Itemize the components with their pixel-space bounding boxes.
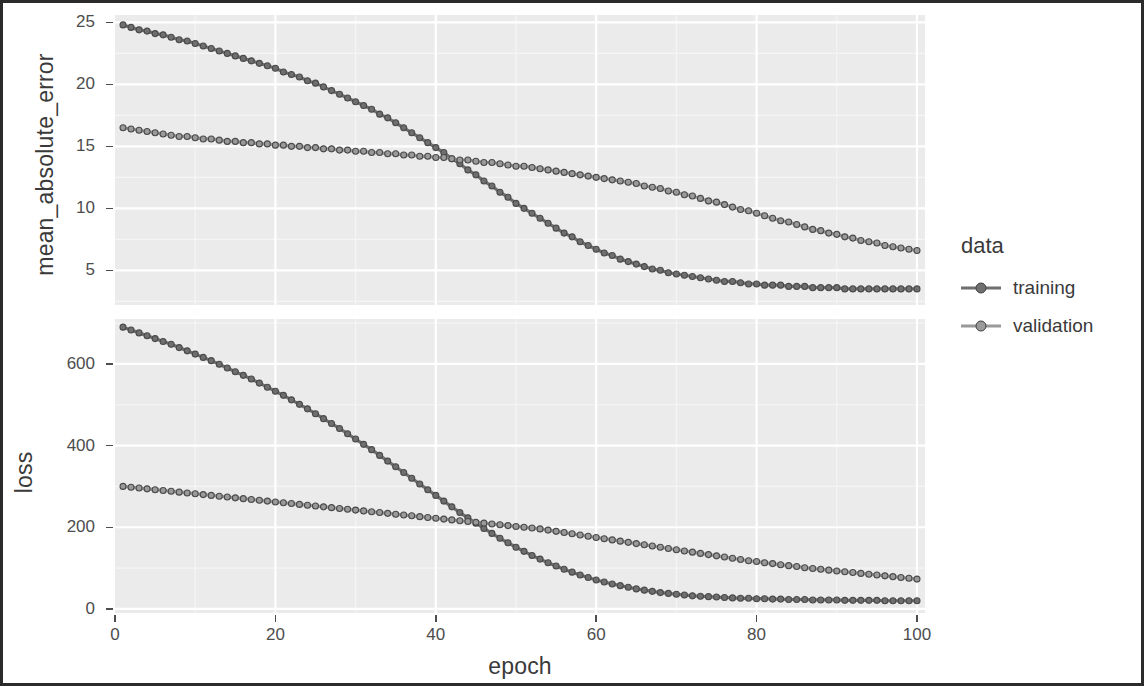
- x-axis-title-epoch: epoch: [115, 653, 925, 680]
- legend-item-validation[interactable]: validation: [961, 315, 1136, 337]
- legend-label: training: [1013, 277, 1075, 299]
- x-tick-label: 100: [882, 625, 952, 645]
- y-tick-mark: [106, 608, 113, 610]
- y-tick-label: 15: [3, 136, 95, 156]
- y-tick-label: 600: [3, 354, 95, 374]
- chart-svg-mean-absolute-error: [115, 15, 925, 305]
- x-tick-mark: [756, 615, 758, 622]
- y-axis-title-loss: loss: [11, 413, 38, 533]
- y-tick-label: 20: [3, 74, 95, 94]
- y-tick-mark: [106, 527, 113, 529]
- x-tick-mark: [114, 615, 116, 622]
- y-tick-mark: [106, 208, 113, 210]
- y-tick-mark: [106, 363, 113, 365]
- legend-item-training[interactable]: training: [961, 277, 1136, 299]
- panel-mean-absolute-error: [115, 15, 925, 305]
- x-tick-label: 60: [561, 625, 631, 645]
- x-tick-label: 40: [401, 625, 471, 645]
- x-tick-mark: [916, 615, 918, 622]
- legend-items: trainingvalidation: [961, 277, 1136, 337]
- x-tick-mark: [595, 615, 597, 622]
- legend-title: data: [961, 233, 1136, 259]
- y-tick-label: 400: [3, 436, 95, 456]
- x-tick-mark: [275, 615, 277, 622]
- y-tick-mark: [106, 22, 113, 24]
- chart-svg-loss: [115, 319, 925, 613]
- legend-key-icon: [961, 277, 1001, 299]
- legend: data trainingvalidation: [961, 233, 1136, 353]
- panel-loss: [115, 319, 925, 613]
- y-tick-mark: [106, 445, 113, 447]
- y-tick-label: 5: [3, 260, 95, 280]
- y-tick-mark: [106, 84, 113, 86]
- legend-label: validation: [1013, 315, 1093, 337]
- x-tick-label: 80: [722, 625, 792, 645]
- plot-frame: mean_absolute_error loss epoch 510152025…: [0, 0, 1144, 686]
- y-tick-mark: [106, 146, 113, 148]
- y-tick-mark: [106, 270, 113, 272]
- x-tick-mark: [435, 615, 437, 622]
- y-tick-label: 10: [3, 198, 95, 218]
- x-tick-label: 0: [80, 625, 150, 645]
- y-tick-label: 25: [3, 12, 95, 32]
- y-tick-label: 200: [3, 517, 95, 537]
- x-tick-label: 20: [240, 625, 310, 645]
- y-tick-label: 0: [3, 599, 95, 619]
- legend-key-icon: [961, 315, 1001, 337]
